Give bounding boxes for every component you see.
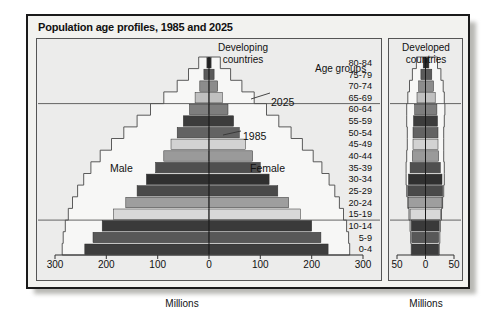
age-group-label: 80-84 bbox=[328, 58, 372, 68]
x-axis-tick-label: 0 bbox=[189, 259, 229, 270]
x-axis-tick-label: 100 bbox=[240, 259, 280, 270]
pyramid-bar bbox=[93, 232, 321, 242]
developing-x-axis-title: Millions bbox=[137, 298, 227, 309]
age-group-label: 60-64 bbox=[328, 104, 372, 114]
age-group-label: 10-14 bbox=[328, 221, 372, 231]
pyramid-bar bbox=[171, 139, 245, 149]
female-label: Female bbox=[250, 162, 285, 174]
pyramid-bar bbox=[126, 197, 289, 207]
developed-x-axis-title: Millions bbox=[391, 298, 461, 309]
age-group-label: 35-39 bbox=[328, 163, 372, 173]
pyramid-bar bbox=[85, 244, 328, 254]
pyramid-bar bbox=[146, 174, 269, 184]
annotation-2025: 2025 bbox=[271, 96, 294, 108]
page-title: Population age profiles, 1985 and 2025 bbox=[38, 21, 233, 33]
pyramid-bar bbox=[137, 186, 278, 196]
figure-frame: Population age profiles, 1985 and 2025 D… bbox=[26, 14, 470, 289]
age-group-label: 25-29 bbox=[328, 186, 372, 196]
pyramid-bar bbox=[177, 128, 239, 138]
pyramid-bar bbox=[114, 209, 301, 219]
pyramid-bar bbox=[164, 151, 253, 161]
pyramid-bar bbox=[183, 116, 233, 126]
developed-countries-plot bbox=[388, 38, 463, 281]
x-axis-tick-label: 200 bbox=[86, 259, 126, 270]
x-axis-tick-label: 200 bbox=[292, 259, 332, 270]
x-axis-tick-label: 50 bbox=[434, 259, 474, 270]
age-group-label: 65-69 bbox=[328, 93, 372, 103]
pyramid-bar bbox=[417, 93, 435, 103]
developed-countries-heading: Developed countries bbox=[392, 42, 460, 65]
age-group-label: 70-74 bbox=[328, 81, 372, 91]
annotation-1985: 1985 bbox=[243, 130, 266, 142]
age-group-label: 40-44 bbox=[328, 151, 372, 161]
pyramid-bar bbox=[421, 69, 432, 79]
age-group-label: 45-49 bbox=[328, 139, 372, 149]
age-group-label: 30-34 bbox=[328, 174, 372, 184]
age-group-label: 50-54 bbox=[328, 128, 372, 138]
developing-countries-heading: Developing countries bbox=[198, 42, 288, 65]
pyramid-bar bbox=[102, 221, 312, 231]
x-axis-tick-label: 100 bbox=[138, 259, 178, 270]
age-group-label: 15-19 bbox=[328, 209, 372, 219]
figure-root: Population age profiles, 1985 and 2025 D… bbox=[0, 0, 495, 313]
x-axis-tick-label: 300 bbox=[35, 259, 75, 270]
age-group-label: 5-9 bbox=[328, 233, 372, 243]
pyramid-bar bbox=[419, 81, 434, 91]
age-group-label: 75-79 bbox=[328, 70, 372, 80]
developed-countries-svg bbox=[389, 39, 462, 280]
pyramid-bar bbox=[156, 162, 261, 172]
male-label: Male bbox=[110, 162, 133, 174]
age-group-label: 20-24 bbox=[328, 198, 372, 208]
age-group-label: 0-4 bbox=[328, 244, 372, 254]
age-group-label: 55-59 bbox=[328, 116, 372, 126]
